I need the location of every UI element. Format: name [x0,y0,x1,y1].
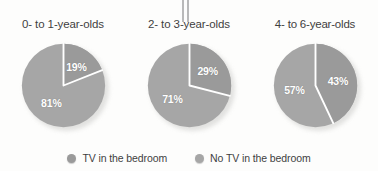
pie-svg-0-to-1 [21,43,106,128]
pie-chart-figure: 0- to 1-year-olds 19% 81% 2- to 3-year-o… [0,0,378,171]
pie-panel-0-to-1: 0- to 1-year-olds 19% 81% [0,18,126,146]
pie-label-tv-4-to-6: 43% [328,75,348,87]
pie-title-4-to-6: 4- to 6-year-olds [252,18,378,30]
pie-svg-2-to-3 [147,43,232,128]
pie-label-tv-0-to-1: 19% [66,61,86,73]
legend: TV in the bedroom No TV in the bedroom [0,148,378,168]
pie-chart-0-to-1: 19% 81% [21,43,106,128]
pie-panel-2-to-3: 2- to 3-year-olds 29% 71% [126,18,252,146]
pie-label-no-tv-0-to-1: 81% [41,97,61,109]
pie-panel-4-to-6: 4- to 6-year-olds 43% 57% [252,18,378,146]
legend-label-no-tv: No TV in the bedroom [210,152,311,164]
legend-swatch-tv-icon [67,154,76,163]
legend-label-tv: TV in the bedroom [82,152,167,164]
pie-label-no-tv-2-to-3: 71% [162,93,182,105]
pie-title-2-to-3: 2- to 3-year-olds [126,18,252,30]
pie-title-0-to-1: 0- to 1-year-olds [0,18,126,30]
pie-chart-4-to-6: 43% 57% [273,43,358,128]
legend-swatch-no-tv-icon [195,154,204,163]
pie-label-no-tv-4-to-6: 57% [284,84,304,96]
pie-label-tv-2-to-3: 29% [197,65,217,77]
legend-item-tv: TV in the bedroom [67,152,167,164]
legend-item-no-tv: No TV in the bedroom [195,152,311,164]
pie-chart-2-to-3: 29% 71% [147,43,232,128]
